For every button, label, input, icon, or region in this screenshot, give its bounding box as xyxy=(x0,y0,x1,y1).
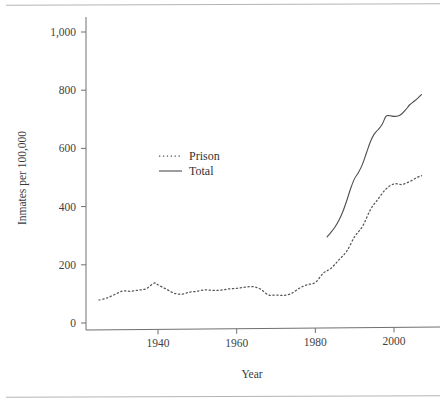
x-tick-label-1940: 1940 xyxy=(147,337,170,349)
y-tick-label-1000: 1,000 xyxy=(50,26,76,39)
y-axis-ticks: 02004006008001,000 xyxy=(50,26,86,329)
chart-legend: Prison Total xyxy=(159,149,220,178)
line-chart: 02004006008001,000 1940196019802000 Inma… xyxy=(0,0,446,407)
legend-label-prison: Prison xyxy=(189,149,220,163)
y-tick-label-400: 400 xyxy=(59,201,77,213)
series-layer xyxy=(99,95,422,300)
x-tick-label-1960: 1960 xyxy=(225,337,248,349)
x-tick-label-2000: 2000 xyxy=(383,335,406,347)
y-tick-label-0: 0 xyxy=(70,317,76,329)
x-axis-line xyxy=(86,327,440,330)
y-tick-label-800: 800 xyxy=(59,84,77,96)
x-tick-label-1980: 1980 xyxy=(304,336,327,348)
y-tick-label-600: 600 xyxy=(59,142,77,154)
legend-label-total: Total xyxy=(189,164,214,178)
y-tick-label-200: 200 xyxy=(59,259,77,271)
y-axis-title: Inmates per 100,000 xyxy=(16,131,29,225)
x-axis-title: Year xyxy=(241,368,262,380)
series-line-prison xyxy=(99,176,422,300)
figure-container: 02004006008001,000 1940196019802000 Inma… xyxy=(0,0,446,407)
x-axis-ticks: 1940196019802000 xyxy=(147,327,406,349)
series-line-total xyxy=(327,95,421,237)
